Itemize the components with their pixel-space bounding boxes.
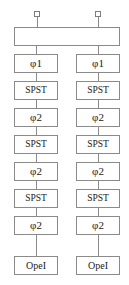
circuit-diagram: φ1SPSTφ2SPSTφ2SPSTφ2OpeIφ1SPSTφ2SPSTφ2SP… [0,0,129,285]
crossover-box [14,27,120,46]
right-chain-stage-4-phase[interactable]: φ2 [76,162,120,181]
right-chain-stage-1-switch[interactable]: SPST [76,81,120,100]
input-terminal-left[interactable] [34,11,40,17]
right-chain-stage-3-switch[interactable]: SPST [76,135,120,154]
right-chain-stage-6-phase[interactable]: φ2 [76,216,120,235]
right-chain-stage-0-phase[interactable]: φ1 [76,54,120,73]
left-chain-stage-1-switch[interactable]: SPST [14,81,58,100]
left-chain-stage-0-phase[interactable]: φ1 [14,54,58,73]
left-chain-stage-4-phase[interactable]: φ2 [14,162,58,181]
left-chain-stage-5-switch[interactable]: SPST [14,189,58,208]
left-chain-stage-7-opamp[interactable]: OpeI [14,256,58,275]
left-chain-stage-2-phase[interactable]: φ2 [14,108,58,127]
input-terminal-right[interactable] [95,11,101,17]
right-chain-stage-5-switch[interactable]: SPST [76,189,120,208]
left-chain-stage-3-switch[interactable]: SPST [14,135,58,154]
right-chain-stage-7-opamp[interactable]: OpeI [76,256,120,275]
right-chain-stage-2-phase[interactable]: φ2 [76,108,120,127]
left-chain-stage-6-phase[interactable]: φ2 [14,216,58,235]
